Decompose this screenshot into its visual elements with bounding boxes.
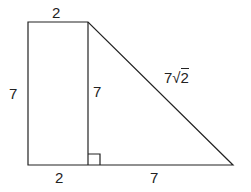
outer-trapezoid bbox=[28, 22, 233, 165]
label-bottom-left: 2 bbox=[55, 170, 63, 185]
sqrt-symbol: √ bbox=[172, 69, 180, 86]
label-top-width: 2 bbox=[52, 5, 60, 20]
hypotenuse-radicand: 2 bbox=[181, 68, 189, 86]
label-inner-height: 7 bbox=[93, 84, 101, 99]
label-bottom-right: 7 bbox=[150, 170, 158, 185]
label-hypotenuse: 7√2 bbox=[164, 70, 189, 85]
right-angle-marker bbox=[88, 154, 100, 165]
label-left-height: 7 bbox=[9, 86, 17, 101]
trapezoid-diagram bbox=[0, 0, 251, 192]
